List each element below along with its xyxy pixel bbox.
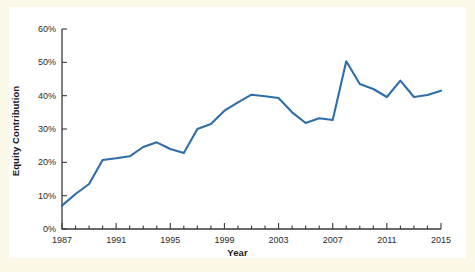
x-tick-label: 2015 <box>431 235 451 245</box>
x-tick-label: 1987 <box>52 235 72 245</box>
y-tick-label: 10% <box>22 191 56 201</box>
y-tick-label: 40% <box>22 91 56 101</box>
y-axis-title-text: Equity Contribution <box>10 86 21 177</box>
line-chart <box>0 0 475 272</box>
y-axis-title: Equity Contribution <box>6 66 24 196</box>
y-tick-label: 20% <box>22 157 56 167</box>
x-tick-label: 2011 <box>377 235 396 245</box>
x-tick-label: 1991 <box>106 235 126 245</box>
y-tick-label: 30% <box>22 124 56 134</box>
axes <box>62 29 441 229</box>
axis-ticks <box>62 29 441 229</box>
figure-container: 0%10%20%30%40%50%60% 1987199119951999200… <box>0 0 475 272</box>
x-axis-title: Year <box>0 247 475 258</box>
x-tick-label: 1995 <box>160 235 180 245</box>
series-line <box>62 61 441 205</box>
y-tick-label: 0% <box>22 224 56 234</box>
y-tick-label: 60% <box>22 24 56 34</box>
x-tick-label: 2003 <box>269 235 289 245</box>
x-tick-label: 1999 <box>214 235 234 245</box>
x-tick-label: 2007 <box>323 235 343 245</box>
data-series-group <box>62 61 441 205</box>
y-tick-label: 50% <box>22 57 56 67</box>
